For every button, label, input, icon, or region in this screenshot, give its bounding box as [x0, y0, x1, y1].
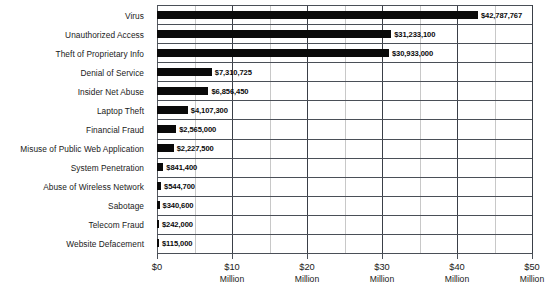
row-separator — [157, 100, 532, 101]
row-separator — [157, 177, 532, 178]
category-label: Laptop Theft — [97, 107, 144, 115]
bar-value-label: $6,856,450 — [211, 88, 248, 96]
row-separator — [157, 215, 532, 216]
x-tick-mark — [382, 253, 383, 259]
x-tick-value: $40 — [449, 262, 465, 272]
x-axis-tick-labels: $0$10Million$20Million$30Million$40Milli… — [0, 262, 547, 291]
category-label: Virus — [125, 12, 144, 20]
x-tick-unit: Million — [220, 274, 244, 286]
bar-value-label: $30,933,000 — [392, 50, 433, 58]
bar-value-label: $7,310,725 — [215, 69, 252, 77]
bar-value-label: $2,565,000 — [179, 126, 216, 134]
x-tick-label: $50Million — [520, 262, 544, 285]
x-tick-mark — [532, 253, 533, 259]
gridline-50000000 — [532, 5, 533, 253]
category-label: Telecom Fraud — [88, 221, 144, 229]
row-separator — [157, 81, 532, 82]
row-separator — [157, 5, 532, 6]
x-tick-value: $10 — [224, 262, 240, 272]
x-tick-unit: Million — [295, 274, 319, 286]
x-tick-label: $20Million — [295, 262, 319, 285]
plot-area: $42,787,767$31,233,100$30,933,000$7,310,… — [157, 5, 532, 253]
bar-value-label: $115,000 — [162, 240, 192, 248]
bar — [157, 11, 478, 19]
category-label: Abuse of Wireless Network — [43, 183, 144, 191]
bar — [157, 201, 160, 209]
x-tick-label: $30Million — [370, 262, 394, 285]
x-tick-unit: Million — [445, 274, 469, 286]
bar-value-label: $31,233,100 — [394, 31, 435, 39]
bar — [157, 125, 176, 133]
bar-value-label: $42,787,767 — [481, 12, 522, 20]
x-tick-value: $20 — [299, 262, 315, 272]
category-axis-labels: VirusUnauthorized AccessTheft of Proprie… — [0, 5, 150, 253]
bar — [157, 68, 212, 76]
category-label: Insider Net Abuse — [78, 88, 144, 96]
bar-value-label: $340,600 — [163, 202, 194, 210]
x-tick-value: $0 — [152, 262, 162, 272]
x-tick-mark — [457, 253, 458, 259]
x-tick-mark — [232, 253, 233, 259]
bar-chart: VirusUnauthorized AccessTheft of Proprie… — [0, 0, 547, 291]
bar — [157, 163, 163, 171]
row-separator — [157, 62, 532, 63]
x-tick-value: $30 — [374, 262, 390, 272]
bar — [157, 239, 159, 247]
x-tick-label: $0 — [152, 262, 162, 274]
x-tick-mark — [157, 253, 158, 259]
row-separator — [157, 24, 532, 25]
row-separator — [157, 43, 532, 44]
category-label: Theft of Proprietary Info — [56, 50, 144, 58]
bar-value-label: $4,107,300 — [191, 107, 228, 115]
category-label: Denial of Service — [80, 69, 144, 77]
bar — [157, 49, 389, 57]
row-separator — [157, 158, 532, 159]
bar — [157, 182, 161, 190]
category-label: System Penetration — [71, 164, 144, 172]
category-label: Misuse of Public Web Application — [20, 145, 144, 153]
category-label: Sabotage — [108, 202, 144, 210]
bar-value-label: $544,700 — [164, 183, 195, 191]
bar-value-label: $2,227,500 — [177, 145, 214, 153]
x-tick-value: $50 — [524, 262, 540, 272]
bar — [157, 87, 208, 95]
x-tick-mark — [307, 253, 308, 259]
category-label: Financial Fraud — [86, 126, 144, 134]
x-tick-unit: Million — [370, 274, 394, 286]
row-separator — [157, 196, 532, 197]
category-label: Website Defacement — [66, 240, 144, 248]
row-separator — [157, 234, 532, 235]
x-tick-label: $10Million — [220, 262, 244, 285]
bar-value-label: $841,400 — [166, 164, 197, 172]
bar — [157, 220, 159, 228]
bar — [157, 30, 391, 38]
bar — [157, 144, 174, 152]
row-separator — [157, 139, 532, 140]
x-tick-unit: Million — [520, 274, 544, 286]
bar-value-label: $242,000 — [162, 221, 193, 229]
category-label: Unauthorized Access — [65, 31, 144, 39]
x-tick-label: $40Million — [445, 262, 469, 285]
row-separator — [157, 119, 532, 120]
bar — [157, 106, 188, 114]
x-axis-tick-marks — [157, 253, 532, 261]
